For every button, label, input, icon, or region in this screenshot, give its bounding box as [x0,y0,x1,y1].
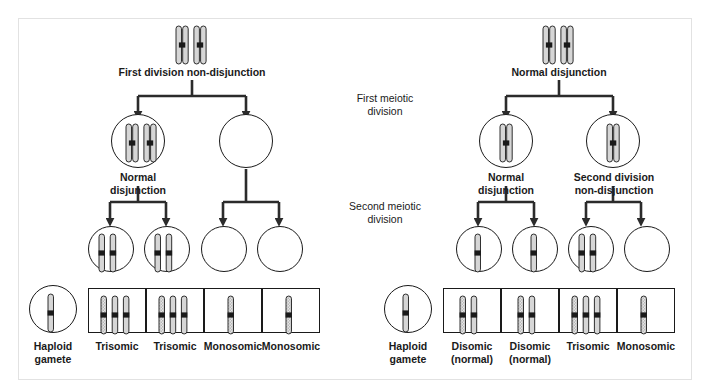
right-zygote-box-2-chromosomes [572,296,601,334]
right-zygote-box-3-label: Monosomic [612,340,680,353]
right-meiosis1-cell-a-label: Normal disjunction [471,171,541,196]
right-meiosis1-cell-b-chromosome [607,124,620,162]
figure-canvas: First division non-disjunction Normal di… [0,0,709,392]
left-zygote-box-1-chromosomes [159,296,188,334]
left-zygote-box-2-chromosomes [228,296,235,334]
right-zygote-box-0-chromosomes [460,296,478,334]
left-zygote-box-3-label: Monosomic [257,340,325,353]
right-zygote-box-1-chromosomes [518,296,536,334]
left-meiosis2-cell-d [257,226,303,272]
right-meiosis1-cell-b-label: Second division non-disjunction [564,171,664,196]
left-meiosis1-cell-a-chromosomes [126,124,157,162]
left-parent-chromosomes [176,26,207,64]
right-haploid-gamete-chromosome [403,294,410,332]
right-meiosis1-cell-a-chromosome [500,124,513,162]
right-meiosis2-cell-b-chromosome [531,234,538,272]
left-zygote-box-0-label: Trisomic [87,340,147,353]
left-top-label: First division non-disjunction [117,66,267,79]
right-meiosis2-cell-c-chromosomes [579,234,597,272]
right-top-label: Normal disjunction [500,66,618,79]
center-label-first-meiotic-division: First meiotic division [336,92,434,118]
left-meiosis2-cell-c [201,226,247,272]
right-parent-chromosomes [543,26,574,64]
left-meiosis2-cell-b-chromosomes [155,234,173,272]
right-haploid-gamete-label: Haploid gamete [373,340,443,365]
right-meiosis2-cell-d [624,226,670,272]
center-label-second-meiotic-division: Second meiotic division [331,200,439,226]
right-zygote-box-1-label: Disomic (normal) [500,340,560,365]
left-meiosis1-cell-b [219,114,273,168]
left-zygote-box-0-chromosomes [101,296,130,334]
right-zygote-box-2-label: Trisomic [558,340,618,353]
left-meiosis1-cell-a-label: Normal disjunction [103,171,173,196]
left-zygote-box-3-chromosomes [286,296,293,334]
right-zygote-box-0-label: Disomic (normal) [442,340,502,365]
left-haploid-gamete-label: Haploid gamete [18,340,88,365]
left-haploid-gamete-chromosome [48,294,55,332]
right-zygote-box-3-chromosomes [641,296,648,334]
left-meiosis2-cell-a-chromosomes [99,234,117,272]
left-zygote-box-1-label: Trisomic [145,340,205,353]
right-meiosis2-cell-a-chromosome [475,234,482,272]
